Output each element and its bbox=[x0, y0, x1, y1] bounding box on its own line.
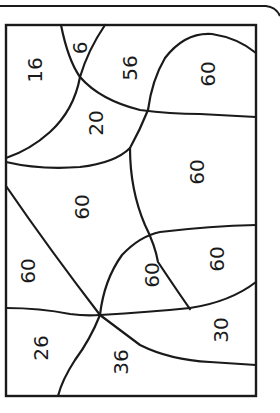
region-label[interactable]: 16 bbox=[25, 57, 45, 82]
region-label[interactable]: 60 bbox=[207, 246, 227, 271]
region-label[interactable]: 36 bbox=[111, 349, 131, 374]
region-label[interactable]: 56 bbox=[120, 55, 140, 80]
region-label[interactable]: 60 bbox=[187, 159, 207, 184]
region-label[interactable]: 60 bbox=[18, 258, 38, 283]
region-label[interactable]: 60 bbox=[198, 61, 218, 86]
region-label[interactable]: 20 bbox=[86, 110, 106, 135]
region-label[interactable]: 6 bbox=[70, 42, 90, 55]
region-label[interactable]: 26 bbox=[31, 335, 51, 360]
region-label[interactable]: 60 bbox=[72, 194, 92, 219]
region-label[interactable]: 60 bbox=[142, 262, 162, 287]
region-label[interactable]: 30 bbox=[211, 317, 231, 342]
page-edge-line bbox=[0, 6, 280, 16]
